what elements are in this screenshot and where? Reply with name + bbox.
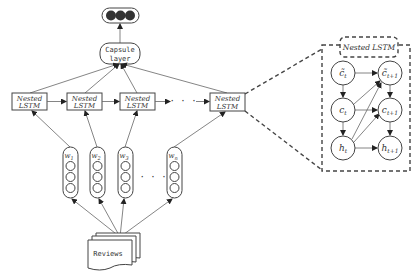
lstm-cell-label: LSTM [216,103,239,111]
node-c-t: ct [331,98,355,122]
zoom-connector-top [245,49,322,94]
node-c-tilde-t1: c̃t+1 [378,61,402,85]
lstm-cell-2: Nested LSTM [67,93,102,110]
node-h-t: ht [331,136,355,160]
word-vector-wn: wn [167,147,182,198]
reviews-to-word-arrows [72,199,172,237]
word-vector-w2: w2 [90,147,105,198]
node-h-t1: ht+1 [378,136,402,160]
reviews-document-stack-icon: Reviews [88,233,140,270]
capsule-layer-label-line1: Capsule [105,46,135,54]
lstm-cell-3: Nested LSTM [120,93,155,110]
word-vector-w3: w3 [118,147,133,198]
lstm-cell-1: Nested LSTM [12,93,47,110]
lstm-cell-label: LSTM [126,102,149,110]
node-c-t1: ct+1 [378,98,402,122]
lstm-cell-label: LSTM [18,102,41,110]
lstm-cell-label: Nested [214,95,241,103]
lstm-cell-n: Nested LSTM [210,93,245,111]
output-capsule-pill [102,8,139,23]
detail-title: Nested LSTM [342,43,396,52]
lstm-cell-label: LSTM [73,102,96,110]
word-vector-w1: w1 [63,147,78,198]
lstm-ellipsis: · · · [169,96,196,106]
zoom-connector-bottom [245,111,322,170]
reviews-label: Reviews [93,250,123,258]
capsule-layer-label-line2: layer [109,55,130,63]
output-node-icon [106,11,116,21]
word-to-lstm-arrows [32,111,225,147]
word-ellipsis: · · · [139,172,166,182]
node-c-tilde-t: c̃t [331,61,355,85]
nested-lstm-detail-panel: Nested LSTM c̃t c̃t+1 ct ct+1 [322,37,410,171]
output-node-icon [116,11,126,21]
capsule-layer-box: Capsule layer [100,43,140,64]
nested-lstm-capsule-diagram: Capsule layer Nested LSTM Nested LSTM Ne… [0,0,420,277]
output-node-icon [125,11,135,21]
lstm-to-capsule-arrows [30,64,227,93]
